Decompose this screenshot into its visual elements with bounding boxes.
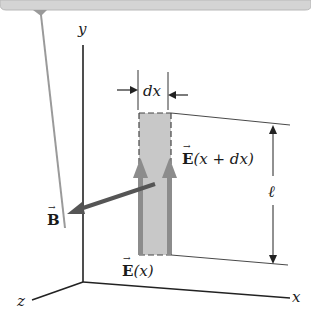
top-extension-line [171, 113, 290, 125]
figure-canvas: y x z dx ℓ → E(x + dx) → E(x) → B [0, 0, 311, 325]
z-axis-label: z [17, 292, 25, 310]
dx-label: dx [143, 82, 161, 100]
z-axis [32, 282, 83, 300]
x-axis-label: x [292, 288, 300, 306]
vector-arrow-icon: → [48, 202, 56, 212]
y-axis-label: y [78, 20, 86, 38]
pointer-line [41, 15, 65, 228]
vector-arrow-icon: → [183, 141, 191, 151]
dx-right-arrow [168, 91, 188, 99]
e-field-left-label: → E(x) [122, 262, 154, 280]
dx-left-arrow [117, 86, 138, 94]
x-axis [83, 282, 290, 298]
b-field-label: → B [47, 211, 60, 229]
length-label: ℓ [268, 182, 275, 201]
vector-arrow-icon: → [123, 253, 131, 263]
e-field-right-label: → E(x + dx) [182, 150, 254, 168]
banner-pointer [33, 10, 47, 16]
top-banner [0, 0, 311, 10]
diagram-graphics [0, 0, 311, 325]
